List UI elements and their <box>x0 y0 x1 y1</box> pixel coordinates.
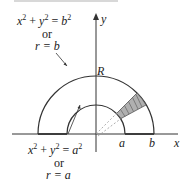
tick-a-label: a <box>119 136 125 151</box>
eq-exp: 2 <box>67 13 71 22</box>
tick-b-label: b <box>149 136 155 151</box>
eq-exp: 2 <box>78 142 82 151</box>
region-label: R <box>97 64 104 79</box>
inner-leader-arrow-icon <box>78 105 81 109</box>
y-axis-label: y <box>101 12 106 27</box>
y-axis-arrow-icon <box>93 13 99 20</box>
dashed-radius-2 <box>98 119 121 137</box>
x-axis-label: x <box>174 136 179 151</box>
outer-polar-label: r = b <box>35 39 60 54</box>
inner-leader-line <box>68 105 80 134</box>
inner-polar-label: r = a <box>46 168 71 183</box>
dashed-radius-1 <box>96 114 117 135</box>
